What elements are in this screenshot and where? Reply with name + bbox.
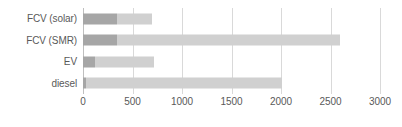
category-label: EV bbox=[64, 51, 77, 73]
bar-stack bbox=[83, 35, 340, 46]
x-tick-label: 0 bbox=[80, 96, 86, 107]
category-label: FCV (solar) bbox=[27, 8, 77, 30]
bar-row bbox=[83, 73, 380, 95]
bar-segment bbox=[83, 56, 95, 67]
bar-chart: FCV (solar)FCV (SMR)EVdiesel 05001000150… bbox=[0, 0, 402, 127]
bar-segment bbox=[83, 13, 117, 24]
x-tick-label: 3000 bbox=[369, 96, 391, 107]
category-label: diesel bbox=[51, 73, 77, 95]
plot-area bbox=[83, 8, 380, 94]
category-label: FCV (SMR) bbox=[26, 30, 77, 52]
gridline-3000 bbox=[380, 8, 381, 94]
x-tick-label: 2500 bbox=[319, 96, 341, 107]
bar-stack bbox=[83, 78, 282, 89]
x-tick-label: 500 bbox=[124, 96, 141, 107]
category-axis-labels: FCV (solar)FCV (SMR)EVdiesel bbox=[0, 8, 77, 94]
bar-stack bbox=[83, 56, 154, 67]
bar-segment bbox=[95, 56, 153, 67]
bar-row bbox=[83, 30, 380, 52]
x-tick-label: 1500 bbox=[220, 96, 242, 107]
bar-row bbox=[83, 8, 380, 30]
bar-stack bbox=[83, 13, 152, 24]
bar-segment bbox=[117, 35, 340, 46]
bar-row bbox=[83, 51, 380, 73]
x-tick-label: 2000 bbox=[270, 96, 292, 107]
bar-segment bbox=[83, 35, 117, 46]
bar-segment bbox=[117, 13, 152, 24]
bar-segment bbox=[86, 78, 283, 89]
value-axis-labels: 050010001500200025003000 bbox=[83, 96, 380, 112]
x-tick-label: 1000 bbox=[171, 96, 193, 107]
